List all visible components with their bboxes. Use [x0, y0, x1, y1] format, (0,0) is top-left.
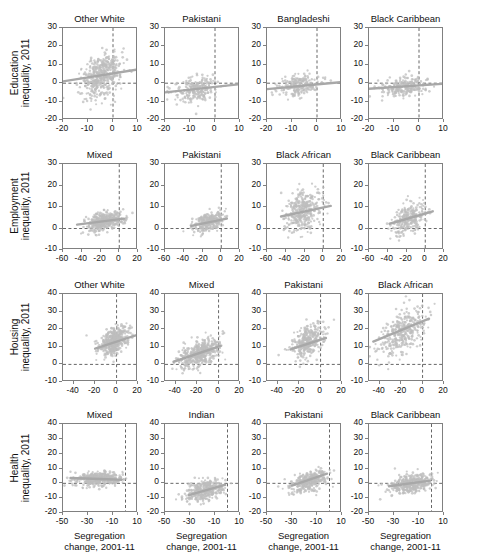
x-axis-label: Segregationchange, 2001-11 — [152, 530, 251, 552]
y-tick-mark — [263, 497, 266, 498]
y-tick-mark — [263, 228, 266, 229]
y-axis-label-line2: inequality, 2011 — [20, 39, 31, 108]
x-tick-mark — [218, 381, 219, 384]
y-tick-mark — [263, 482, 266, 483]
y-tick-label: 10 — [236, 341, 261, 350]
y-tick-label: 20 — [236, 448, 261, 457]
x-tick-label: 10 — [429, 124, 457, 133]
y-tick-label: 10 — [236, 201, 261, 210]
y-tick-mark — [59, 453, 62, 454]
x-axis-label-line2: change, 2001-11 — [254, 541, 353, 552]
y-tick-label: 0 — [338, 223, 363, 232]
y-tick-label: 30 — [32, 158, 57, 167]
y-tick-label: 20 — [236, 40, 261, 49]
y-axis-label-line2: inequality, 2011 — [20, 433, 31, 502]
x-tick-mark — [220, 249, 221, 252]
x-tick-mark — [424, 249, 425, 252]
plot-area — [164, 423, 239, 512]
y-tick-label: 20 — [338, 40, 363, 49]
y-tick-mark — [59, 82, 62, 83]
panel-title: Black Caribbean — [368, 149, 443, 160]
x-tick-label: -30 — [175, 517, 203, 526]
scatter-panel-r3-c1: Other White — [62, 293, 137, 381]
scatter-panel-r3-c3: Pakistani — [266, 293, 341, 381]
y-tick-mark — [59, 381, 62, 382]
y-tick-mark — [365, 206, 368, 207]
x-tick-label: 20 — [225, 386, 253, 395]
y-tick-mark — [263, 206, 266, 207]
y-tick-label: 0 — [134, 477, 159, 486]
x-tick-label: 20 — [225, 254, 253, 263]
y-tick-mark — [59, 438, 62, 439]
x-axis-label-line2: change, 2001-11 — [50, 541, 149, 552]
y-tick-mark — [161, 163, 164, 164]
plot-area — [62, 163, 137, 249]
panel-title: Other White — [62, 279, 137, 290]
x-tick-mark — [183, 249, 184, 252]
y-tick-mark — [263, 438, 266, 439]
x-tick-label: -10 — [302, 517, 330, 526]
panel-title: Pakistani — [266, 279, 341, 290]
x-tick-mark — [422, 381, 423, 384]
y-tick-label: 20 — [32, 40, 57, 49]
plot-area — [266, 423, 341, 512]
y-tick-mark — [161, 311, 164, 312]
y-tick-mark — [263, 185, 266, 186]
y-axis-label-line2: inequality, 2011 — [20, 303, 31, 372]
y-tick-label: 20 — [338, 180, 363, 189]
plot-area — [164, 27, 239, 119]
y-tick-mark — [263, 468, 266, 469]
y-tick-mark — [365, 228, 368, 229]
y-tick-label: -20 — [134, 507, 159, 516]
x-tick-label: 0 — [200, 124, 228, 133]
x-tick-mark — [316, 119, 317, 122]
y-tick-mark — [365, 468, 368, 469]
y-tick-label: 0 — [338, 358, 363, 367]
y-tick-label: 0 — [236, 77, 261, 86]
chart-row-4: Healthinequality, 2011Mixed-20-100102030… — [0, 403, 481, 532]
scatter-panel-r4-c1: Mixed — [62, 423, 137, 512]
x-tick-mark — [393, 119, 394, 122]
x-tick-mark — [196, 381, 197, 384]
plot-area — [368, 293, 443, 381]
panel-title: Pakistani — [164, 13, 239, 24]
x-tick-mark — [62, 512, 63, 515]
y-tick-label: -20 — [338, 114, 363, 123]
y-tick-label: 0 — [32, 77, 57, 86]
plot-area — [62, 423, 137, 512]
x-tick-label: 20 — [429, 386, 457, 395]
y-tick-mark — [59, 293, 62, 294]
x-tick-mark — [118, 249, 119, 252]
y-tick-mark — [365, 45, 368, 46]
panel-title: Indian — [164, 409, 239, 420]
x-axis-label-line2: change, 2001-11 — [152, 541, 251, 552]
x-tick-label: 20 — [429, 254, 457, 263]
x-tick-label: -50 — [150, 517, 178, 526]
plot-area — [164, 163, 239, 249]
y-tick-label: -10 — [32, 96, 57, 105]
y-tick-label: 20 — [134, 180, 159, 189]
y-tick-mark — [161, 185, 164, 186]
y-tick-label: 10 — [134, 341, 159, 350]
scatter-panel-r4-c3: Pakistani — [266, 423, 341, 512]
y-tick-mark — [59, 311, 62, 312]
y-tick-label: 0 — [32, 477, 57, 486]
y-tick-mark — [161, 453, 164, 454]
y-tick-label: 10 — [338, 463, 363, 472]
x-tick-mark — [393, 512, 394, 515]
y-tick-mark — [59, 363, 62, 364]
plot-area — [164, 293, 239, 381]
x-tick-mark — [100, 249, 101, 252]
y-tick-mark — [59, 468, 62, 469]
y-tick-label: -10 — [134, 96, 159, 105]
y-tick-mark — [161, 363, 164, 364]
x-axis-label-line1: Segregation — [254, 530, 353, 541]
y-tick-label: 10 — [134, 201, 159, 210]
y-tick-mark — [365, 311, 368, 312]
x-tick-mark — [285, 249, 286, 252]
x-tick-mark — [291, 119, 292, 122]
y-tick-label: 20 — [338, 323, 363, 332]
y-tick-mark — [59, 482, 62, 483]
y-tick-label: 10 — [236, 59, 261, 68]
panel-title: Bangladeshi — [266, 13, 341, 24]
